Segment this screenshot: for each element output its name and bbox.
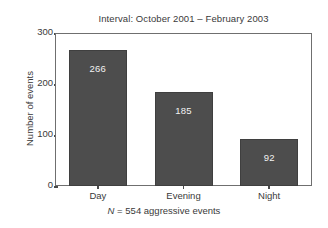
bar-value-label: 185 bbox=[156, 105, 212, 116]
bar-value-label: 266 bbox=[70, 63, 126, 74]
bar-chart-figure: Interval: October 2001 – February 2003 N… bbox=[0, 0, 328, 228]
y-tick: 300 bbox=[0, 33, 62, 34]
x-tick-label-evening: Evening bbox=[144, 190, 224, 201]
y-tick: 100 bbox=[0, 135, 62, 136]
bar-evening: 185 bbox=[155, 92, 213, 186]
x-tick-label-night: Night bbox=[229, 190, 309, 201]
caption-text: = 554 aggressive events bbox=[114, 205, 220, 216]
figure-caption: N = 554 aggressive events bbox=[0, 205, 328, 216]
bar-day: 266 bbox=[69, 50, 127, 186]
bar-value-label: 92 bbox=[241, 152, 297, 163]
x-tick-mark bbox=[97, 186, 99, 189]
chart-title: Interval: October 2001 – February 2003 bbox=[55, 13, 312, 24]
x-tick-label-day: Day bbox=[58, 190, 138, 201]
y-tick: 0 bbox=[0, 186, 62, 187]
y-tick-label: 0 bbox=[48, 179, 53, 190]
x-tick-mark bbox=[268, 186, 270, 189]
y-tick-label: 300 bbox=[37, 26, 53, 37]
y-tick-label: 100 bbox=[37, 128, 53, 139]
y-axis-label: Number of events bbox=[24, 34, 35, 184]
y-tick: 200 bbox=[0, 84, 62, 85]
y-tick-label: 200 bbox=[37, 77, 53, 88]
x-tick-mark bbox=[183, 186, 185, 189]
bar-night: 92 bbox=[240, 139, 298, 186]
y-tick-mark bbox=[54, 186, 58, 188]
